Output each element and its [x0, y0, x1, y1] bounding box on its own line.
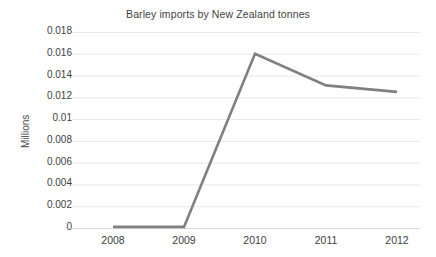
- x-tick-label: 2010: [225, 234, 285, 246]
- y-tick-label: 0.006: [10, 156, 72, 167]
- x-tick-label: 2009: [154, 234, 214, 246]
- y-tick-label: 0: [10, 221, 72, 232]
- y-tick-label: 0.016: [10, 47, 72, 58]
- y-tick-label: 0.014: [10, 69, 72, 80]
- gridlines: [72, 33, 420, 229]
- x-tick-label: 2011: [296, 234, 356, 246]
- x-tick-label: 2008: [83, 234, 143, 246]
- y-tick-label: 0.004: [10, 177, 72, 188]
- x-tick-label: 2012: [367, 234, 427, 246]
- y-tick-label: 0.002: [10, 199, 72, 210]
- y-tick-label: 0.01: [10, 112, 72, 123]
- y-tick-label: 0.012: [10, 90, 72, 101]
- y-tick-label: 0.008: [10, 134, 72, 145]
- data-series-line: [113, 54, 397, 227]
- y-tick-label: 0.018: [10, 25, 72, 36]
- line-chart: Barley imports by New Zealand tonnes Mil…: [0, 0, 436, 257]
- y-axis-ticks: 0.0180.0160.0140.0120.010.0080.0060.0040…: [0, 0, 72, 257]
